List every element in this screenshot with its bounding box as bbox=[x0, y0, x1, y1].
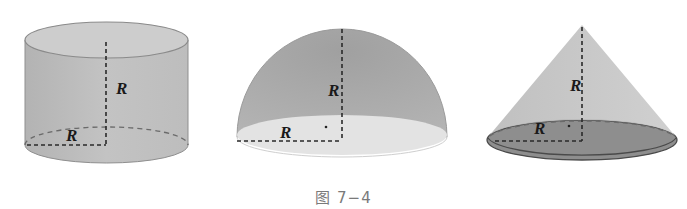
hemisphere-height-label: R bbox=[327, 81, 339, 100]
cylinder-radius-label: R bbox=[65, 126, 77, 145]
solids-figure: R R R R R R bbox=[0, 0, 687, 209]
figure-caption: 图 7−4 bbox=[0, 186, 687, 207]
cone-height-label: R bbox=[569, 76, 581, 95]
cylinder: R R bbox=[25, 22, 188, 163]
cone-center-dot bbox=[568, 125, 571, 128]
cylinder-height-label: R bbox=[115, 79, 127, 98]
cone: R R bbox=[487, 25, 677, 160]
hemisphere-center-dot bbox=[325, 126, 328, 129]
hemisphere: R R bbox=[237, 29, 447, 157]
hemisphere-radius-label: R bbox=[279, 123, 291, 142]
cone-radius-label: R bbox=[533, 119, 545, 138]
